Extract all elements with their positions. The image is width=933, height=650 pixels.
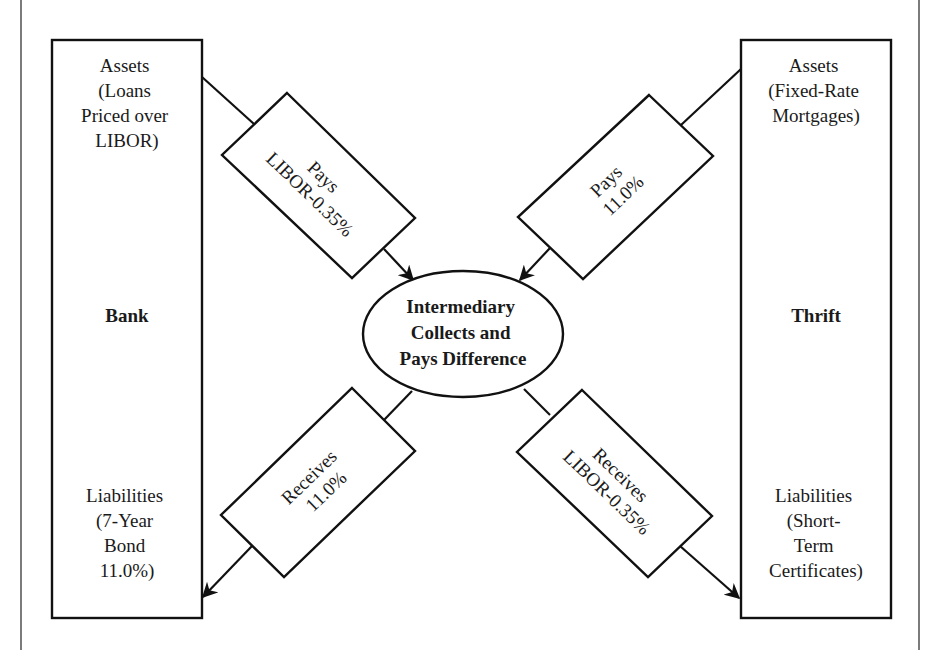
thrift-box: Assets (Fixed-Rate Mortgages) Thrift Lia… — [741, 40, 891, 618]
thrift-title: Thrift — [791, 305, 841, 326]
connector-thrift-assets — [681, 69, 741, 125]
connector-intermediary-thrift — [524, 389, 550, 415]
interest-rate-swap-diagram: Assets (Loans Priced over LIBOR) Bank Li… — [0, 0, 933, 650]
arrow-bank-receives — [203, 546, 252, 597]
arrow-thrift-pays — [520, 248, 550, 280]
bank-title: Bank — [105, 305, 149, 326]
intermediary-node: Intermediary Collects and Pays Differenc… — [363, 271, 563, 397]
connector-intermediary-bank — [384, 391, 412, 420]
connector-bank-assets — [202, 77, 254, 124]
intermediary-label: Intermediary Collects and Pays Differenc… — [400, 296, 527, 369]
bank-box: Assets (Loans Priced over LIBOR) Bank Li… — [52, 40, 202, 618]
arrow-bank-pays — [384, 249, 413, 280]
arrow-thrift-receives — [680, 546, 739, 598]
